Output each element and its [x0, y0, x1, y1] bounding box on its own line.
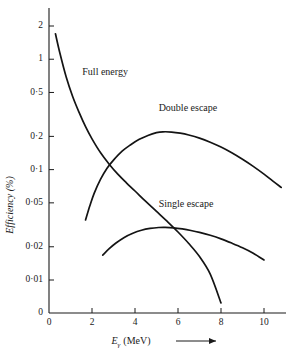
y-tick-label: 0·1 — [30, 164, 43, 174]
curve-label-full-energy: Full energy — [82, 66, 128, 77]
y-axis-ticks: 210·50·20·10·050·020·010 — [26, 20, 54, 317]
x-tick-label: 10 — [259, 317, 269, 327]
curve-full-energy — [55, 34, 221, 303]
y-tick-label: 2 — [38, 20, 43, 30]
x-tick-label: 0 — [47, 317, 52, 327]
x-axis-arrow-head — [209, 338, 216, 344]
chart-plot-area: 210·50·20·10·050·020·010 0246810 Full en… — [0, 0, 292, 353]
y-tick-label: 1 — [38, 53, 43, 63]
y-tick-label: 0 — [38, 307, 43, 317]
x-tick-label: 6 — [176, 317, 181, 327]
curve-single-escape — [103, 227, 264, 260]
y-tick-label: 0·02 — [26, 241, 44, 251]
y-tick-label: 0·05 — [26, 197, 44, 207]
y-tick-label: 0·2 — [30, 131, 43, 141]
x-tick-label: 4 — [133, 317, 138, 327]
efficiency-vs-gamma-energy-chart: 210·50·20·10·050·020·010 0246810 Full en… — [0, 0, 292, 353]
x-tick-label: 8 — [219, 317, 224, 327]
curve-label-double-escape: Double escape — [159, 102, 218, 113]
y-tick-label: 0·01 — [26, 274, 44, 284]
y-axis-title: Efficiency (%) — [4, 176, 16, 235]
y-tick-label: 0·5 — [30, 87, 43, 97]
x-axis-ticks: 0246810 — [47, 308, 269, 327]
curve-label-single-escape: Single escape — [159, 198, 214, 209]
x-axis-title: Eγ(MeV) — [110, 335, 150, 349]
x-tick-label: 2 — [90, 317, 95, 327]
